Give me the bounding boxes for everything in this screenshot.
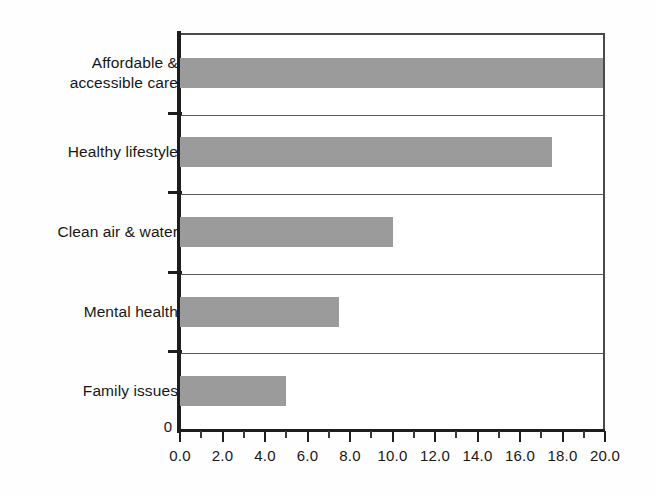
x-axis-minor-tick bbox=[200, 431, 202, 438]
category-label: Mental health bbox=[6, 302, 178, 322]
bar[interactable] bbox=[180, 376, 286, 406]
x-axis-tick bbox=[604, 431, 606, 442]
x-axis-minor-tick bbox=[328, 431, 330, 438]
x-axis-minor-tick bbox=[455, 431, 457, 438]
x-axis-minor-tick bbox=[370, 431, 372, 438]
category-label: Healthy lifestyle bbox=[6, 142, 178, 162]
x-axis-tick-label: 12.0 bbox=[420, 447, 450, 464]
category-label: Affordable &accessible care bbox=[6, 53, 178, 93]
x-axis-minor-tick bbox=[540, 431, 542, 438]
x-axis-tick bbox=[392, 431, 394, 442]
x-axis-tick-label: 2.0 bbox=[212, 447, 233, 464]
x-axis-tick bbox=[477, 431, 479, 442]
category-label-line: Clean air & water bbox=[6, 222, 178, 242]
x-axis-tick-label: 20.0 bbox=[590, 447, 620, 464]
category-label-line: Family issues bbox=[6, 381, 178, 401]
category-label-line: accessible care bbox=[6, 73, 178, 93]
x-axis-tick-label: 16.0 bbox=[505, 447, 535, 464]
y-axis-origin-label: 0 bbox=[148, 418, 172, 435]
category-label: Family issues bbox=[6, 381, 178, 401]
x-axis-tick bbox=[264, 431, 266, 442]
bar[interactable] bbox=[180, 137, 552, 167]
x-axis-tick-label: 18.0 bbox=[548, 447, 578, 464]
x-axis-tick bbox=[179, 431, 181, 442]
x-axis-tick-label: 8.0 bbox=[339, 447, 360, 464]
x-axis-tick bbox=[519, 431, 521, 442]
bar[interactable] bbox=[180, 297, 339, 327]
x-axis-tick-label: 10.0 bbox=[378, 447, 408, 464]
x-axis-tick-label: 6.0 bbox=[297, 447, 318, 464]
x-axis-tick bbox=[434, 431, 436, 442]
category-label-line: Healthy lifestyle bbox=[6, 142, 178, 162]
bar[interactable] bbox=[180, 217, 393, 247]
x-axis-minor-tick bbox=[583, 431, 585, 438]
x-axis-tick-label: 4.0 bbox=[254, 447, 275, 464]
x-axis-tick bbox=[349, 431, 351, 442]
category-label-line: Affordable & bbox=[6, 53, 178, 73]
x-axis-minor-tick bbox=[413, 431, 415, 438]
x-axis-tick bbox=[222, 431, 224, 442]
bar[interactable] bbox=[180, 58, 603, 88]
category-label: Clean air & water bbox=[6, 222, 178, 242]
category-label-line: Mental health bbox=[6, 302, 178, 322]
x-axis-tick bbox=[307, 431, 309, 442]
x-axis-minor-tick bbox=[498, 431, 500, 438]
x-axis-minor-tick bbox=[243, 431, 245, 438]
x-axis-tick-label: 14.0 bbox=[463, 447, 493, 464]
bar-chart-figure: 0.02.04.06.08.010.012.014.016.018.020.0 … bbox=[0, 0, 655, 497]
x-axis-minor-tick bbox=[285, 431, 287, 438]
x-axis-tick bbox=[562, 431, 564, 442]
